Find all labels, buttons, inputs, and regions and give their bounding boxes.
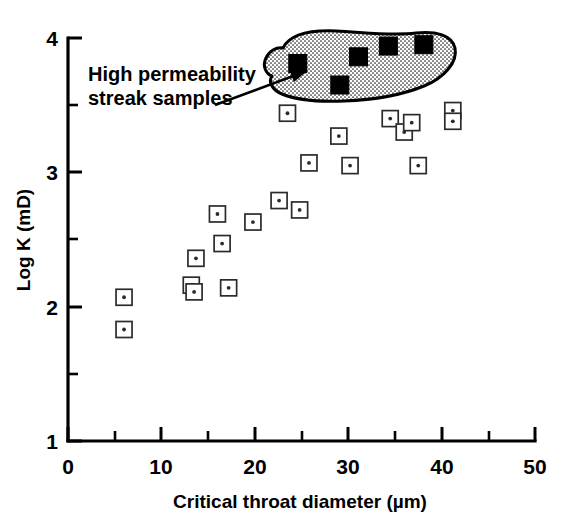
x-axis-tick-labels: 0 10 20 30 40 50 [62,455,547,478]
data-point-open-square [301,155,317,171]
data-point-open-square [342,158,358,174]
data-point-filled-square [331,76,349,94]
annotation-label: High permeability streak samples [88,63,257,109]
data-point-open-square [214,236,230,252]
data-point-filled-square [289,55,307,73]
data-point-open-square [292,202,308,218]
data-point-open-square [445,113,461,129]
x-tick-label-20: 20 [243,455,266,478]
data-point-open-square [186,284,202,300]
y-tick-label-2: 2 [46,296,58,319]
data-point-open-square [188,250,204,266]
x-tick-label-50: 50 [523,455,546,478]
x-tick-label-10: 10 [149,455,172,478]
data-point-open-square [221,280,237,296]
y-tick-label-3: 3 [46,161,58,184]
data-point-filled-square [349,48,367,66]
y-axis-ticks [68,38,82,441]
data-point-open-square [116,289,132,305]
annotation-line-2: streak samples [88,87,233,109]
x-tick-label-40: 40 [430,455,453,478]
data-point-filled-square [415,36,433,54]
y-axis-tick-labels: 4 3 2 1 [46,27,58,453]
data-point-open-square [245,214,261,230]
data-point-filled-square [379,37,397,55]
scatter-plot-figure: 4 3 2 1 0 10 20 30 40 50 [0,0,567,532]
y-axis-title: Log K (mD) [13,189,34,291]
y-tick-label-4: 4 [46,27,58,50]
plot-canvas: 4 3 2 1 0 10 20 30 40 50 [0,0,567,532]
x-axis-ticks [68,427,535,441]
data-point-open-square [404,115,420,131]
data-point-open-square [209,206,225,222]
annotation-line-1: High permeability [88,63,257,85]
data-series-standard-samples [116,103,461,338]
x-tick-label-30: 30 [336,455,359,478]
x-axis-title: Critical throat diameter (µm) [173,491,427,512]
data-point-open-square [116,322,132,338]
y-tick-label-1: 1 [46,430,58,453]
data-point-open-square [331,128,347,144]
data-point-open-square [410,158,426,174]
data-point-open-square [271,193,287,209]
data-point-open-square [279,105,295,121]
x-tick-label-0: 0 [62,455,74,478]
